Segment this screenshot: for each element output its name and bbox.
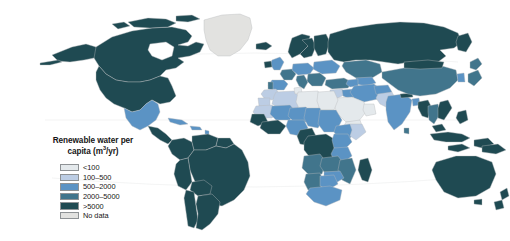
country-korea [457,73,465,82]
legend-swatch [60,174,79,181]
country-oman-uae [363,104,376,116]
legend-label: 2000–5000 [83,192,120,201]
legend-row: No data [60,211,158,221]
legend-title-line2-prefix: capita (m [67,147,103,156]
legend-row: <100 [60,163,158,173]
country-tasmania [474,199,482,205]
legend-label: No data [83,211,109,220]
legend-label: >5000 [83,202,104,211]
world-map-figure: Renewable water per capita (m3/yr) <100 … [0,0,510,241]
country-ireland [264,61,272,68]
legend-label: <100 [83,163,99,172]
legend-label: 100–500 [83,173,111,182]
legend-row: 2000–5000 [60,192,158,202]
legend-swatch [60,164,79,171]
legend-swatch [60,183,79,190]
country-western-sahara [258,98,270,106]
legend-title: Renewable water per capita (m3/yr) [34,136,152,157]
map-legend: Renewable water per capita (m3/yr) <100 … [34,136,158,221]
country-mongolia [404,60,444,69]
legend-title-line1: Renewable water per [53,136,134,145]
legend-row: >5000 [60,201,158,211]
legend-title-line2-suffix: /yr) [106,147,119,156]
legend-swatch [60,212,79,219]
legend-label: 500–2000 [83,182,115,191]
legend-row: 100–500 [60,173,158,183]
country-portugal [268,82,273,90]
country-egypt [317,91,338,110]
legend-swatch [60,202,79,209]
legend-swatch [60,193,79,200]
country-sri-lanka [404,128,409,134]
legend-row: 500–2000 [60,182,158,192]
